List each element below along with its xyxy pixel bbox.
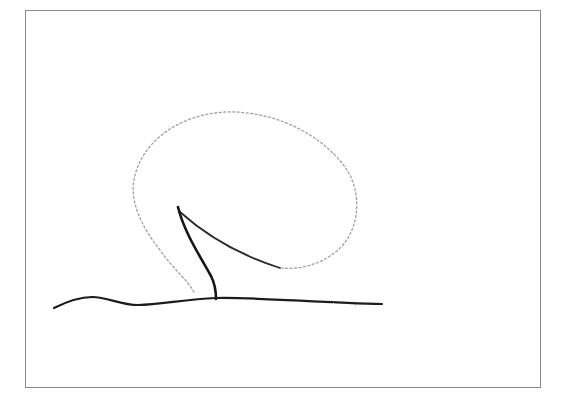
branch [180, 212, 280, 268]
canopy-outline [133, 112, 357, 292]
trunk [178, 207, 216, 299]
ground-line [54, 297, 382, 308]
tree-sketch [0, 0, 567, 405]
